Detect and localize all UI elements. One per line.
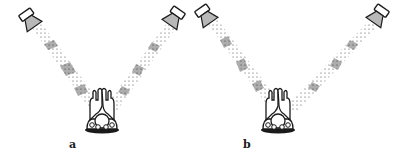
beam-right-b bbox=[284, 22, 378, 112]
ultrasound-beam-illustration bbox=[0, 0, 399, 166]
beam-right-a bbox=[104, 24, 176, 112]
panel-b bbox=[193, 3, 391, 134]
panel-a bbox=[17, 5, 187, 134]
panel-label-a: a bbox=[69, 138, 76, 151]
panel-label-b: b bbox=[243, 138, 251, 151]
